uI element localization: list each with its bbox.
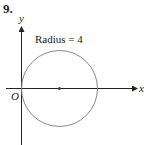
radius-annotation: Radius = 4	[35, 33, 83, 45]
origin-label: O	[11, 90, 19, 102]
center-point	[58, 87, 61, 90]
y-axis-label: y	[18, 12, 24, 24]
x-axis-label: x	[138, 82, 144, 94]
diagram: y x O Radius = 4	[0, 0, 144, 145]
